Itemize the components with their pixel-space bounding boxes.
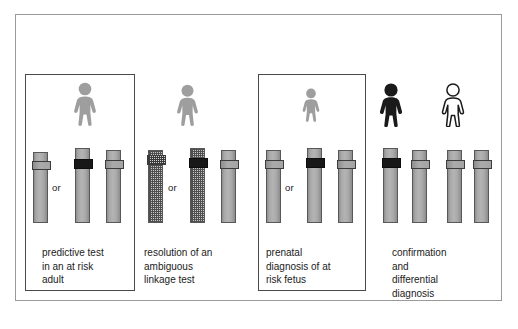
gel-lane bbox=[221, 150, 236, 223]
gel-lane bbox=[33, 152, 48, 223]
adult-figure-gray-icon bbox=[72, 82, 98, 126]
gel-band-gray bbox=[32, 161, 51, 170]
unaffected-figure-white-icon bbox=[440, 83, 466, 127]
panel-caption-prenatal-diagnosis: prenatal diagnosis of at risk fetus bbox=[266, 246, 362, 287]
gel-band-gray bbox=[105, 160, 124, 169]
gel-band-black bbox=[382, 158, 401, 168]
gel-band-gray bbox=[220, 160, 239, 169]
gel-lane bbox=[266, 150, 281, 223]
gel-band-gray bbox=[265, 160, 284, 169]
or-label: or bbox=[168, 182, 177, 193]
gel-lane bbox=[75, 148, 90, 223]
panel-caption-predictive-test: predictive test in an at risk adult bbox=[42, 246, 134, 287]
diagnostic-gel-figure: or predictive test in an at risk adult o… bbox=[0, 0, 518, 329]
or-label: or bbox=[285, 182, 294, 193]
panel-caption-linkage-test: resolution of an ambiguous linkage test bbox=[144, 246, 248, 287]
gel-lane bbox=[474, 150, 489, 223]
gel-lane-hatched bbox=[190, 148, 205, 223]
gel-lane bbox=[447, 150, 462, 223]
gel-band-gray bbox=[446, 160, 465, 169]
gel-band-black bbox=[74, 159, 93, 169]
adult-figure-gray-icon bbox=[175, 84, 200, 126]
gel-band-hatched bbox=[147, 155, 166, 165]
gel-band-gray bbox=[473, 160, 492, 169]
gel-band-gray bbox=[337, 160, 356, 169]
affected-figure-black-icon bbox=[378, 83, 404, 127]
gel-band-black bbox=[306, 158, 325, 168]
gel-band-gray bbox=[411, 160, 430, 169]
gel-lane bbox=[412, 150, 427, 223]
panel-caption-confirmation: confirmation and differential diagnosis bbox=[392, 246, 496, 300]
gel-lane bbox=[383, 148, 398, 223]
fetus-figure-gray-icon bbox=[301, 88, 321, 122]
gel-band-black bbox=[189, 158, 208, 168]
gel-lane bbox=[106, 150, 121, 223]
gel-lane-hatched bbox=[148, 150, 163, 223]
gel-lane bbox=[307, 148, 322, 223]
gel-lane bbox=[338, 150, 353, 223]
or-label: or bbox=[52, 182, 61, 193]
